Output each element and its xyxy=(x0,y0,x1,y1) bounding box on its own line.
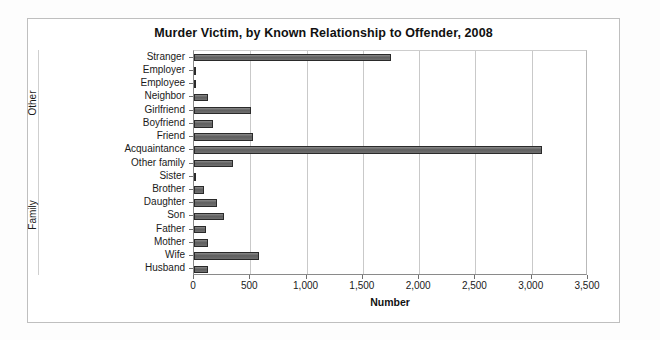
x-tick-mark xyxy=(418,275,419,279)
gridline xyxy=(475,51,476,274)
bar xyxy=(194,252,259,260)
x-tick-mark xyxy=(249,275,250,279)
y-tick-mark xyxy=(189,163,193,164)
bar xyxy=(194,133,253,141)
x-tick-mark xyxy=(587,275,588,279)
x-tick-label: 3,500 xyxy=(574,280,599,291)
x-tick-mark xyxy=(362,275,363,279)
group-label-other: Other xyxy=(27,50,39,156)
y-tick-mark xyxy=(189,215,193,216)
bar xyxy=(194,67,196,75)
gridline xyxy=(419,51,420,274)
y-tick-mark xyxy=(189,242,193,243)
chart-title: Murder Victim, by Known Relationship to … xyxy=(27,26,620,40)
bar xyxy=(194,186,204,194)
x-tick-label: 2,000 xyxy=(406,280,431,291)
y-tick-mark xyxy=(189,255,193,256)
bar xyxy=(194,239,208,247)
y-tick-mark xyxy=(189,229,193,230)
x-tick-mark xyxy=(306,275,307,279)
gridline xyxy=(250,51,251,274)
x-tick-label: 1,500 xyxy=(349,280,374,291)
y-tick-mark xyxy=(189,123,193,124)
y-axis-label: Brother xyxy=(152,183,185,194)
bar xyxy=(194,199,217,207)
y-axis-label: Sister xyxy=(159,170,185,181)
y-tick-mark xyxy=(189,70,193,71)
y-axis-category-labels: StrangerEmployerEmployeeNeighborGirlfrie… xyxy=(60,50,189,275)
y-axis-label: Other family xyxy=(131,157,185,168)
bar xyxy=(194,107,251,115)
bar xyxy=(194,266,208,274)
y-axis-label: Father xyxy=(156,223,185,234)
y-tick-mark xyxy=(189,136,193,137)
bar xyxy=(194,54,391,62)
y-axis-label: Boyfriend xyxy=(143,117,185,128)
x-tick-label: 1,000 xyxy=(293,280,318,291)
y-tick-mark xyxy=(189,268,193,269)
gridline xyxy=(363,51,364,274)
bar xyxy=(194,146,542,154)
y-tick-mark xyxy=(189,202,193,203)
y-axis-label: Employee xyxy=(141,77,185,88)
x-tick-label: 2,500 xyxy=(462,280,487,291)
plot-area xyxy=(193,50,587,275)
bar xyxy=(194,226,206,234)
bar xyxy=(194,160,233,168)
bar xyxy=(194,173,196,181)
x-axis-title: Number xyxy=(193,296,587,308)
y-tick-mark xyxy=(189,110,193,111)
chart-figure: Murder Victim, by Known Relationship to … xyxy=(0,0,660,340)
x-tick-mark xyxy=(531,275,532,279)
x-tick-label: 3,000 xyxy=(518,280,543,291)
x-tick-mark xyxy=(474,275,475,279)
y-tick-mark xyxy=(189,57,193,58)
y-axis-label: Mother xyxy=(154,236,185,247)
y-axis-label: Wife xyxy=(165,249,185,260)
y-axis-label: Son xyxy=(167,209,185,220)
y-axis-label: Stranger xyxy=(147,51,185,62)
x-tick-label: 500 xyxy=(241,280,258,291)
y-tick-mark xyxy=(189,176,193,177)
y-axis-label: Employer xyxy=(143,64,185,75)
bar xyxy=(194,94,208,102)
group-label-family: Family xyxy=(27,156,39,275)
x-tick-label: 0 xyxy=(190,280,196,291)
x-tick-mark xyxy=(193,275,194,279)
bar xyxy=(194,80,196,88)
y-axis-label: Girlfriend xyxy=(144,104,185,115)
bar xyxy=(194,120,213,128)
y-axis-label: Friend xyxy=(157,130,185,141)
bar xyxy=(194,213,224,221)
y-axis-label: Husband xyxy=(145,262,185,273)
gridline xyxy=(307,51,308,274)
y-tick-mark xyxy=(189,83,193,84)
y-axis-label: Daughter xyxy=(144,196,185,207)
y-axis-label: Acquaintance xyxy=(124,143,185,154)
gridline xyxy=(532,51,533,274)
y-tick-mark xyxy=(189,96,193,97)
y-tick-mark xyxy=(189,149,193,150)
y-tick-mark xyxy=(189,189,193,190)
y-axis-label: Neighbor xyxy=(144,90,185,101)
